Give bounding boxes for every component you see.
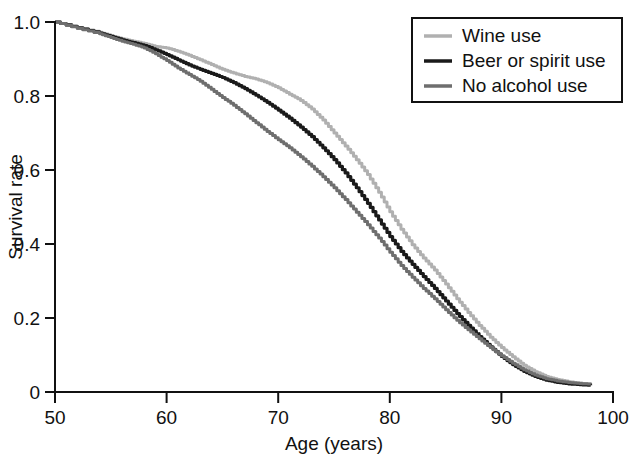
- legend-label: Beer or spirit use: [462, 50, 606, 71]
- x-tick-label: 100: [597, 407, 629, 428]
- chart-canvas: 00.20.40.60.81.0 5060708090100 Age (year…: [0, 0, 629, 459]
- x-axis-title: Age (years): [285, 433, 383, 454]
- x-tick-group: 5060708090100: [44, 392, 628, 428]
- y-tick-label: 1.0: [14, 12, 40, 33]
- x-axis: 5060708090100: [44, 392, 628, 428]
- x-tick-label: 60: [156, 407, 177, 428]
- x-tick-label: 90: [491, 407, 512, 428]
- y-tick-label: 0.8: [14, 86, 40, 107]
- legend-label: No alcohol use: [462, 75, 588, 96]
- x-tick-label: 80: [379, 407, 400, 428]
- legend-label: Wine use: [462, 25, 541, 46]
- y-tick-label: 0.2: [14, 308, 40, 329]
- y-axis-title: Survival rate: [5, 154, 26, 260]
- survival-curve-figure: 00.20.40.60.81.0 5060708090100 Age (year…: [0, 0, 629, 459]
- y-tick-label: 0: [29, 382, 40, 403]
- x-tick-label: 70: [268, 407, 289, 428]
- legend: Wine useBeer or spirit useNo alcohol use: [412, 18, 622, 102]
- x-tick-label: 50: [44, 407, 65, 428]
